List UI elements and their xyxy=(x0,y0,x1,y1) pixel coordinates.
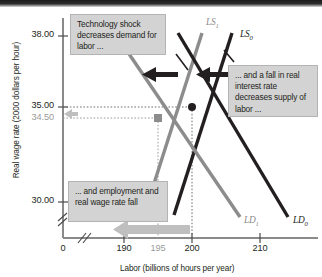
note-supply-shift: ... and a fall in real interest rate dec… xyxy=(228,65,318,117)
figure-root: Real wage rate (2000 dollars per hour) 3… xyxy=(0,0,322,277)
curve-label-LD0: LD0 xyxy=(293,215,308,227)
equilibrium-marker-original xyxy=(188,103,196,111)
curve-labor-supply-LS0 xyxy=(174,33,232,215)
curve-label-LS0: LS0 xyxy=(240,29,253,41)
arrow-wage-falls xyxy=(64,109,78,119)
curve-label-LS1: LS1 xyxy=(206,17,219,29)
equilibrium-marker-new xyxy=(154,114,162,122)
leader-line-demand-note xyxy=(176,54,188,70)
arrow-employment-falls xyxy=(113,220,190,239)
curve-label-LD1: LD1 xyxy=(244,215,259,227)
note-outcome: ... and employment and real wage rate fa… xyxy=(68,181,168,222)
note-demand-shock: Technology shock decreases demand for la… xyxy=(70,14,166,55)
